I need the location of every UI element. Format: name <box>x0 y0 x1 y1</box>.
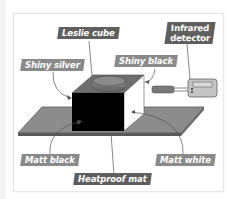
label-heatproof-mat: Heatproof mat <box>73 173 151 185</box>
label-matt-black: Matt black <box>20 154 79 166</box>
label-leslie-cube: Leslie cube <box>57 27 119 39</box>
label-matt-white: Matt white <box>155 154 216 166</box>
label-shiny-silver: Shiny silver <box>20 59 85 71</box>
label-shiny-black: Shiny black <box>114 55 178 67</box>
infrared-detector <box>152 79 217 97</box>
leslie-cube <box>72 75 144 131</box>
label-infrared-detector: Infrareddetector <box>164 22 215 44</box>
